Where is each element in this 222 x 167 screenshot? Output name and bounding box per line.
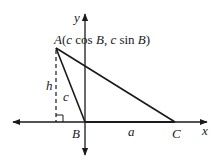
y-axis-label: y [72,10,80,25]
right-angle-marker [56,115,63,122]
side-a-label: a [128,124,135,139]
side-b [56,48,175,122]
side-c [56,48,85,122]
x-axis-label: x [201,123,208,138]
triangle-diagram: y x A(c cos B, c sin B) B C a c h [0,0,222,167]
height-label: h [46,78,53,93]
point-c-label: C [172,126,181,141]
side-c-label: c [63,89,69,104]
point-b-label: B [72,126,80,141]
point-a-label: A(c cos B, c sin B) [53,32,150,47]
